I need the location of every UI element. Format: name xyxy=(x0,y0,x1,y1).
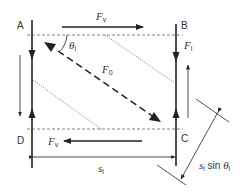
sl-sin-theta-label: sl sin θl xyxy=(199,160,230,172)
fl-label: Fl xyxy=(184,40,192,52)
fv-bottom-subscript: v xyxy=(55,141,59,148)
corner-label-a: A xyxy=(17,21,24,31)
slant-theta-subscript: l xyxy=(229,165,231,172)
f0-subscript: 0 xyxy=(109,69,113,76)
fv-top-label: Fv xyxy=(96,11,106,23)
theta-label: θl xyxy=(69,40,76,52)
upper-slant-tick xyxy=(196,99,229,122)
fv-bottom-symbol: F xyxy=(48,135,55,147)
fv-bottom-label: Fv xyxy=(48,136,58,148)
fv-top-symbol: F xyxy=(96,10,103,22)
theta-subscript: l xyxy=(74,45,76,52)
corner-label-c: C xyxy=(181,134,188,144)
corner-label-d: D xyxy=(17,136,24,146)
upper-dotted-diagonal xyxy=(105,35,175,83)
right-down-arrowhead xyxy=(173,52,180,62)
lower-slant-tick xyxy=(157,165,186,185)
right-up-arrowhead xyxy=(173,108,180,118)
fl-symbol: F xyxy=(184,39,191,51)
slant-sin-text: sin xyxy=(205,160,223,171)
sl-subscript: l xyxy=(102,168,104,175)
left-down-arrowhead xyxy=(29,50,36,60)
f0-label: F0 xyxy=(102,64,113,76)
shear-force-diagram: A B C D Fv Fv Fl F0 θl sl sl sin θl xyxy=(0,0,240,192)
fl-subscript: l xyxy=(191,45,193,52)
f0-upper-arrowhead xyxy=(44,42,56,52)
f0-lower-arrowhead xyxy=(149,112,161,122)
corner-label-b: B xyxy=(181,21,188,31)
left-up-arrowhead xyxy=(29,108,36,118)
sl-label: sl xyxy=(98,163,104,175)
f0-symbol: F xyxy=(102,63,109,75)
f0-dashed-arrow xyxy=(58,51,154,117)
fv-top-subscript: v xyxy=(103,16,107,23)
lower-dotted-diagonal xyxy=(33,80,101,129)
theta-angle-arc xyxy=(59,35,67,52)
